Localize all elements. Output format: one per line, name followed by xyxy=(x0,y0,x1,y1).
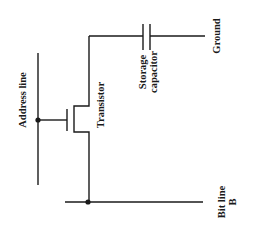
transistor-channel-wire xyxy=(74,36,89,202)
transistor-label: Transistor xyxy=(95,81,106,128)
storage-capacitor-label-line2: capacitor xyxy=(148,51,159,93)
ground-label: Ground xyxy=(211,18,222,54)
address-line-label: Address line xyxy=(17,72,28,128)
storage-capacitor-label-line1: Storage xyxy=(137,54,148,89)
bit-line-label-line1: Bit line xyxy=(216,185,227,218)
address-junction-dot xyxy=(35,117,40,122)
bit-line-label-line2: B xyxy=(227,198,238,205)
bit-line-junction-dot xyxy=(85,199,90,204)
dram-cell-diagram: Address line Transistor Storage capacito… xyxy=(0,0,266,234)
